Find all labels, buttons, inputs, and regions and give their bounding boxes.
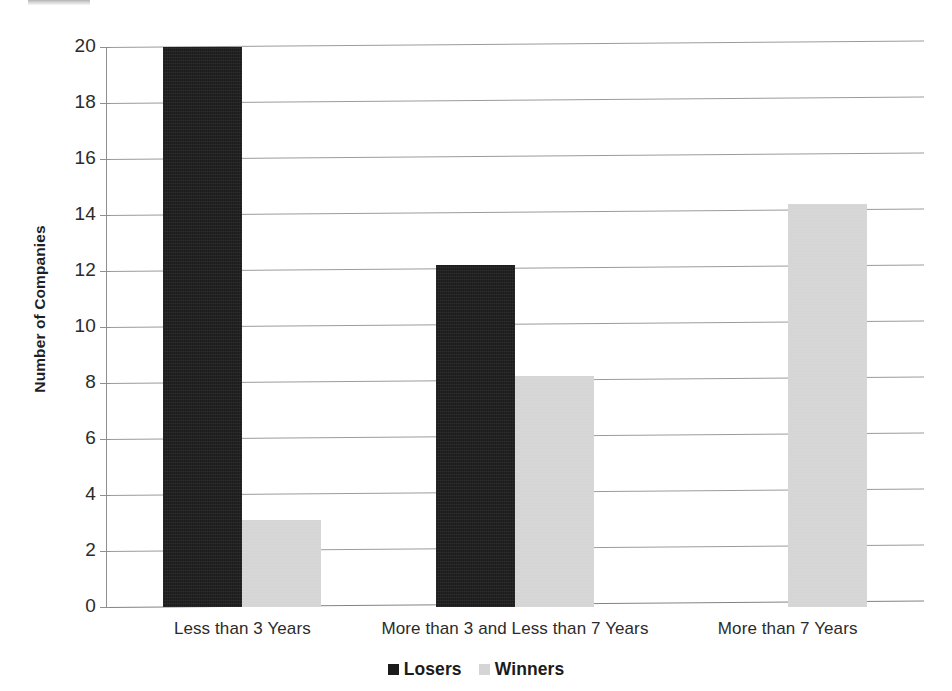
bar-texture bbox=[242, 520, 321, 607]
y-axis-tick-label: 12 bbox=[56, 259, 96, 281]
y-axis-tick-label: 18 bbox=[56, 91, 96, 113]
bar-texture bbox=[515, 376, 594, 607]
legend-swatch-icon bbox=[479, 664, 490, 675]
bar-texture bbox=[436, 265, 515, 607]
x-axis-label-0: Less than 3 Years bbox=[106, 619, 379, 639]
bar-losers-0 bbox=[163, 47, 242, 607]
y-axis-tick bbox=[100, 607, 110, 608]
y-axis-tick-label: 6 bbox=[56, 427, 96, 449]
y-axis-title: Number of Companies bbox=[31, 199, 49, 419]
legend-label: Winners bbox=[495, 659, 565, 680]
bar-losers-1 bbox=[436, 265, 515, 607]
y-axis-tick-label: 0 bbox=[56, 595, 96, 617]
bar-texture bbox=[788, 204, 867, 607]
y-axis-tick-labels: 02468101214161820 bbox=[50, 0, 96, 691]
x-axis-label-2: More than 7 Years bbox=[651, 619, 924, 639]
bar-texture bbox=[163, 47, 242, 607]
y-axis-tick-label: 2 bbox=[56, 539, 96, 561]
y-axis-tick-label: 4 bbox=[56, 483, 96, 505]
legend-swatch-icon bbox=[388, 664, 399, 675]
bar-winners-2 bbox=[788, 204, 867, 607]
x-axis-label-1: More than 3 and Less than 7 Years bbox=[379, 619, 652, 639]
legend-item-winners: Winners bbox=[479, 659, 565, 680]
bar-winners-0 bbox=[242, 520, 321, 607]
plot-area bbox=[106, 47, 924, 607]
y-axis-tick-label: 14 bbox=[56, 203, 96, 225]
y-axis-tick-label: 10 bbox=[56, 315, 96, 337]
x-axis-category-labels: Less than 3 YearsMore than 3 and Less th… bbox=[106, 619, 924, 649]
chart-legend: LosersWinners bbox=[0, 659, 952, 680]
y-axis-tick-label: 16 bbox=[56, 147, 96, 169]
y-axis-tick-label: 8 bbox=[56, 371, 96, 393]
legend-item-losers: Losers bbox=[388, 659, 462, 680]
legend-label: Losers bbox=[404, 659, 462, 680]
bar-winners-1 bbox=[515, 376, 594, 607]
bar-chart: 02468101214161820 Number of Companies Le… bbox=[0, 0, 952, 691]
y-axis-tick-label: 20 bbox=[56, 35, 96, 57]
